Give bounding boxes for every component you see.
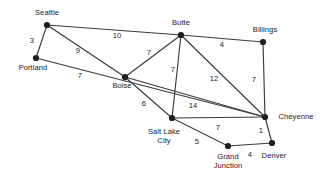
node-label-line: Seattle xyxy=(35,9,59,17)
node-label-line: Butte xyxy=(172,19,190,27)
edge-weight-billings-cheyenne: 7 xyxy=(252,76,256,84)
node-label-line: Grand xyxy=(214,152,243,161)
graph-edge-billings-cheyenne xyxy=(263,42,265,117)
edge-weight-seattle-portland: 3 xyxy=(30,37,34,45)
node-label-denver: Denver xyxy=(262,152,287,160)
edge-weight-boise-salt-lake-city: 6 xyxy=(142,100,146,108)
edge-weight-cheyenne-denver: 1 xyxy=(259,127,263,135)
node-label-line: Denver xyxy=(262,152,287,160)
graph-node-boise[interactable] xyxy=(122,74,128,80)
node-label-boise: Boise xyxy=(112,82,131,90)
graph-node-butte[interactable] xyxy=(178,32,184,38)
graph-edge-grand-junction-denver xyxy=(228,143,272,146)
edge-weight-boise-butte: 7 xyxy=(147,49,151,57)
edge-weight-butte-cheyenne: 12 xyxy=(210,75,219,83)
graph-edge-seattle-portland xyxy=(36,25,47,58)
edge-weight-butte-billings: 4 xyxy=(220,41,224,49)
node-label-line: Cheyenne xyxy=(278,113,313,121)
graph-node-seattle[interactable] xyxy=(44,22,50,28)
graph-node-grand-junction[interactable] xyxy=(225,143,231,149)
graph-node-portland[interactable] xyxy=(33,55,39,61)
node-label-butte: Butte xyxy=(172,19,190,27)
edge-weight-boise-cheyenne: 14 xyxy=(189,102,198,110)
node-label-line: City xyxy=(148,136,180,145)
node-label-grand-junction: GrandJunction xyxy=(214,152,243,171)
node-label-line: Junction xyxy=(214,161,243,170)
edge-weight-seattle-boise: 9 xyxy=(76,47,80,55)
graph-node-denver[interactable] xyxy=(269,140,275,146)
graph-edge-portland-cheyenne xyxy=(36,58,265,117)
node-label-salt-lake-city: Salt LakeCity xyxy=(148,127,180,146)
node-label-seattle: Seattle xyxy=(35,9,59,17)
edge-weight-salt-lake-city-grand-junction: 5 xyxy=(195,138,199,146)
graph-edge-butte-salt-lake-city xyxy=(172,35,181,118)
node-label-portland: Portland xyxy=(19,64,48,72)
edge-weight-salt-lake-city-cheyenne: 7 xyxy=(216,124,220,132)
edge-weight-butte-salt-lake-city: 7 xyxy=(171,66,175,74)
node-label-cheyenne: Cheyenne xyxy=(278,113,313,121)
edge-weight-portland-cheyenne: 7 xyxy=(78,72,82,80)
node-label-billings: Billings xyxy=(253,26,277,34)
edge-weight-grand-junction-denver: 4 xyxy=(248,151,252,159)
node-label-line: Boise xyxy=(112,82,131,90)
edge-weight-seattle-butte: 10 xyxy=(113,32,122,40)
graph-edge-cheyenne-denver xyxy=(265,117,272,143)
graph-node-salt-lake-city[interactable] xyxy=(169,115,175,121)
graph-node-billings[interactable] xyxy=(260,39,266,45)
weighted-graph-figure: 391077614471277514SeattlePortlandBoiseBu… xyxy=(0,0,325,184)
graph-edge-salt-lake-city-cheyenne xyxy=(172,117,265,118)
node-label-line: Salt Lake xyxy=(148,127,180,136)
node-label-line: Billings xyxy=(253,26,277,34)
graph-node-cheyenne[interactable] xyxy=(262,114,268,120)
node-label-line: Portland xyxy=(19,64,48,72)
